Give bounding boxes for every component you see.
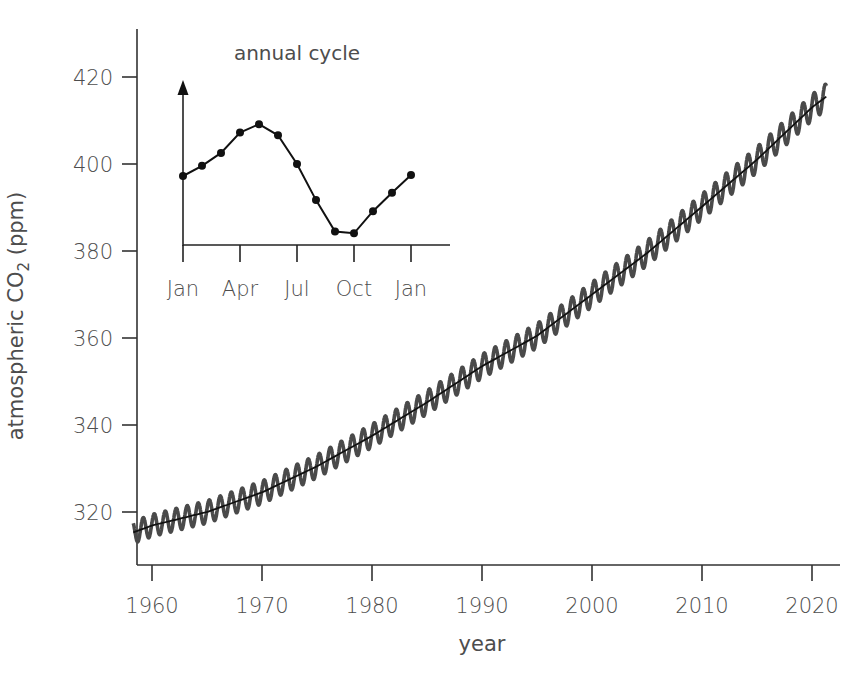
- inset-data-point: [331, 228, 339, 236]
- y-axis-title-unit: (ppm): [4, 192, 28, 262]
- x-ticks: 1960197019801990200020102020: [125, 565, 838, 618]
- inset-x-ticks: JanAprJulOctJan: [167, 245, 427, 301]
- y-tick-label: 340: [73, 414, 113, 438]
- y-tick-label: 420: [73, 66, 113, 90]
- y-axis-title-subscript: 2: [15, 262, 33, 272]
- y-ticks: 320340360380400420: [73, 66, 137, 525]
- y-tick-label: 360: [73, 327, 113, 351]
- main-plot: 320340360380400420 196019701980199020002…: [4, 29, 840, 656]
- inset-markers: [179, 120, 415, 237]
- inset-data-point: [179, 172, 187, 180]
- y-axis-title: atmospheric CO2 (ppm): [4, 192, 33, 441]
- arrow-up-icon: [178, 80, 189, 95]
- y-tick-label: 400: [73, 153, 113, 177]
- co2-chart: 320340360380400420 196019701980199020002…: [0, 0, 862, 676]
- inset-x-tick-label: Apr: [222, 277, 259, 301]
- x-tick-label: 1960: [125, 594, 178, 618]
- seasonal-co2-line: [133, 84, 826, 542]
- inset-data-point: [350, 229, 358, 237]
- y-axis-title-main: atmospheric CO: [4, 271, 28, 440]
- inset-data-point: [236, 129, 244, 137]
- x-axis-title: year: [459, 632, 506, 656]
- inset-data-point: [388, 189, 396, 197]
- y-tick-label: 320: [73, 501, 113, 525]
- x-tick-label: 2020: [785, 594, 838, 618]
- inset-data-point: [198, 162, 206, 170]
- inset-data-point: [312, 196, 320, 204]
- x-tick-label: 2000: [565, 594, 618, 618]
- inset-data-point: [274, 131, 282, 139]
- inset-data-point: [369, 207, 377, 215]
- x-tick-label: 1990: [455, 594, 508, 618]
- inset-title: annual cycle: [234, 41, 360, 65]
- inset-cycle-line: [183, 124, 411, 233]
- inset-data-point: [255, 120, 263, 128]
- inset-x-tick-label: Jan: [167, 277, 199, 301]
- trend-line: [133, 97, 826, 533]
- x-tick-label: 1980: [345, 594, 398, 618]
- x-tick-label: 1970: [235, 594, 288, 618]
- y-tick-label: 380: [73, 240, 113, 264]
- annual-cycle-inset: annual cycle JanAprJulOctJan: [167, 41, 450, 301]
- inset-x-tick-label: Jan: [395, 277, 427, 301]
- inset-data-point: [293, 160, 301, 168]
- inset-x-tick-label: Jul: [284, 277, 309, 301]
- inset-data-point: [217, 149, 225, 157]
- inset-x-tick-label: Oct: [336, 277, 372, 301]
- inset-data-point: [407, 171, 415, 179]
- x-tick-label: 2010: [675, 594, 728, 618]
